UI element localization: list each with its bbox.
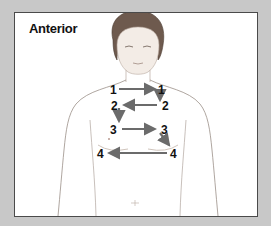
point-1-left: 1 xyxy=(158,83,165,97)
point-3-right: 3 xyxy=(110,123,117,137)
point-3-left: 3 xyxy=(161,123,168,137)
point-2-left: 2 xyxy=(162,99,169,113)
point-2-right: 2 xyxy=(111,99,118,113)
point-4-right: 4 xyxy=(97,147,104,161)
point-1-right: 1 xyxy=(110,83,117,97)
point-4-left: 4 xyxy=(170,147,177,161)
arrows xyxy=(109,89,169,153)
body-outline xyxy=(58,11,218,216)
torso-figure: 1 1 2 2 3 3 4 4 xyxy=(0,0,271,226)
